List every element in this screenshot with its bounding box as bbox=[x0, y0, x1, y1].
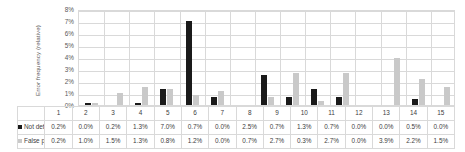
table-category-header: 13 bbox=[373, 107, 400, 121]
table-category-header: 11 bbox=[318, 107, 345, 121]
table-category-header: 6 bbox=[181, 107, 208, 121]
y-axis-tick-label: 4% bbox=[48, 55, 74, 61]
bar-group bbox=[154, 11, 179, 105]
bar-group bbox=[381, 11, 406, 105]
bar bbox=[293, 73, 299, 105]
table-cell-value: 1.5% bbox=[99, 135, 126, 149]
table-category-header: 9 bbox=[263, 107, 290, 121]
bar-group bbox=[255, 11, 280, 105]
y-axis-title-text: Error frequency (relative) bbox=[35, 24, 42, 95]
table-cell-value: 0.0% bbox=[209, 121, 236, 135]
legend-swatch-false-positives-icon bbox=[18, 139, 22, 143]
y-axis-tick-label: 3% bbox=[48, 67, 74, 73]
bar bbox=[412, 99, 418, 105]
bar-group bbox=[305, 11, 330, 105]
bar-group bbox=[431, 11, 455, 105]
table-cell-value: 0.7% bbox=[236, 135, 263, 149]
bar bbox=[343, 73, 349, 105]
bar-group bbox=[280, 11, 305, 105]
table-category-header: 14 bbox=[400, 107, 427, 121]
table-category-header: 2 bbox=[72, 107, 99, 121]
y-axis-tick-label: 5% bbox=[48, 43, 74, 49]
table-category-header: 1 bbox=[45, 107, 72, 121]
bar-group bbox=[129, 11, 154, 105]
bar bbox=[419, 79, 425, 105]
bar-group bbox=[104, 11, 129, 105]
bar bbox=[268, 97, 274, 105]
y-axis-title: Error frequency (relative) bbox=[31, 14, 45, 106]
table-cell-value: 0.2% bbox=[45, 121, 72, 135]
bar bbox=[211, 97, 217, 105]
table-category-header: 8 bbox=[236, 107, 263, 121]
table-category-header: 5 bbox=[154, 107, 181, 121]
bar bbox=[286, 97, 292, 105]
legend-label-not-detected: Not detected (%) bbox=[24, 123, 45, 130]
bar-group bbox=[79, 11, 104, 105]
table-cell-value: 1.3% bbox=[127, 135, 154, 149]
bar bbox=[167, 89, 173, 105]
legend-item-not-detected: Not detected (%) bbox=[18, 121, 45, 135]
bar-group bbox=[406, 11, 431, 105]
bar bbox=[218, 91, 224, 105]
y-axis-tick-label: 6% bbox=[48, 31, 74, 37]
table-corner-cell bbox=[18, 107, 45, 121]
table-category-header: 4 bbox=[127, 107, 154, 121]
bar-group bbox=[330, 11, 355, 105]
bar bbox=[142, 87, 148, 105]
y-axis-tick-label: 1% bbox=[48, 91, 74, 97]
bar-group bbox=[230, 11, 255, 105]
table-cell-value: 7.0% bbox=[154, 121, 181, 135]
table-category-header: 12 bbox=[345, 107, 372, 121]
y-axis-tick-labels: 0%1%2%3%4%5%6%7%8% bbox=[48, 10, 76, 106]
bar bbox=[444, 87, 450, 105]
bar bbox=[318, 101, 324, 105]
table-cell-value: 0.2% bbox=[99, 121, 126, 135]
table-cell-value: 0.8% bbox=[154, 135, 181, 149]
bar bbox=[186, 21, 192, 105]
bar-group bbox=[180, 11, 205, 105]
bar bbox=[193, 95, 199, 105]
bar-group bbox=[205, 11, 230, 105]
table-category-header: 7 bbox=[209, 107, 236, 121]
y-axis-tick-label: 2% bbox=[48, 79, 74, 85]
table-row-categories: 123456789101112131415 bbox=[18, 107, 455, 121]
table-category-header: 10 bbox=[291, 107, 318, 121]
bar bbox=[261, 75, 267, 105]
table-cell-value: 0.0% bbox=[427, 121, 454, 135]
table-cell-value: 1.0% bbox=[72, 135, 99, 149]
data-table: 123456789101112131415 Not detected (%) 0… bbox=[17, 106, 455, 149]
table-cell-value: 3.9% bbox=[373, 135, 400, 149]
table-cell-value: 0.7% bbox=[263, 121, 290, 135]
table-cell-value: 2.2% bbox=[400, 135, 427, 149]
table-cell-value: 2.5% bbox=[236, 121, 263, 135]
table-cell-value: 1.3% bbox=[291, 121, 318, 135]
bar bbox=[394, 58, 400, 105]
table-cell-value: 0.7% bbox=[318, 121, 345, 135]
table-cell-value: 2.7% bbox=[318, 135, 345, 149]
y-axis-tick-label: 8% bbox=[48, 7, 74, 13]
legend-item-false-positives: False positives (%) bbox=[18, 135, 45, 149]
table-cell-value: 1.5% bbox=[427, 135, 454, 149]
table-cell-value: 0.0% bbox=[209, 135, 236, 149]
y-axis-tick-label: 7% bbox=[48, 19, 74, 25]
table-cell-value: 2.7% bbox=[263, 135, 290, 149]
bar bbox=[117, 93, 123, 105]
table-cell-value: 0.7% bbox=[181, 121, 208, 135]
legend-label-false-positives: False positives (%) bbox=[24, 137, 45, 144]
table-cell-value: 0.0% bbox=[373, 121, 400, 135]
table-cell-value: 0.3% bbox=[291, 135, 318, 149]
table-cell-value: 0.2% bbox=[45, 135, 72, 149]
table-cell-value: 1.3% bbox=[127, 121, 154, 135]
table-cell-value: 0.0% bbox=[72, 121, 99, 135]
bar bbox=[336, 97, 342, 105]
table-row: Not detected (%) 0.2%0.0%0.2%1.3%7.0%0.7… bbox=[18, 121, 455, 135]
plot-area bbox=[78, 10, 455, 106]
bar-group bbox=[355, 11, 380, 105]
plot-wrapper: 0%1%2%3%4%5%6%7%8% bbox=[48, 10, 455, 108]
table-cell-value: 0.5% bbox=[400, 121, 427, 135]
table-cell-value: 0.0% bbox=[345, 135, 372, 149]
table-row: False positives (%) 0.2%1.0%1.5%1.3%0.8%… bbox=[18, 135, 455, 149]
error-frequency-chart: Error frequency (relative) 0%1%2%3%4%5%6… bbox=[0, 0, 465, 152]
bar bbox=[160, 89, 166, 105]
bar bbox=[135, 103, 141, 105]
